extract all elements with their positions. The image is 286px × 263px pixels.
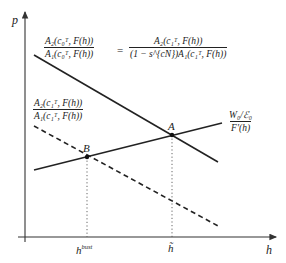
point-a — [170, 133, 174, 137]
x-axis-label: h — [266, 244, 272, 256]
increasing-curve-label: W₀/ℰ₀ F′(h) — [228, 110, 253, 134]
upper-right-numerator: A₂(c₁ᵀ, F(h)) — [154, 36, 202, 46]
upper-right-denominator: (1 − s^{cN})A₁(c₁ᵀ, F(h)) — [130, 49, 226, 59]
tick-h-bust-sup: bust — [82, 243, 93, 250]
tick-h-tilde: h̃ — [168, 243, 174, 254]
lower-decreasing-dashed-curve — [34, 126, 220, 227]
point-a-label: A — [168, 121, 175, 132]
upper-left-numerator: A₂(c₀ᵀ, F(h)) — [45, 36, 93, 46]
point-b-label: B — [83, 143, 90, 154]
dashed-numerator: A₂(c₁ᵀ, F(h)) — [34, 98, 82, 108]
upper-left-denominator: A₁(c₀ᵀ, F(h)) — [45, 49, 93, 59]
increasing-curve — [34, 123, 222, 170]
increasing-numerator: W₀/ℰ₀ — [229, 110, 252, 120]
equals-sign: = — [117, 44, 123, 56]
dashed-curve-label: A₂(c₁ᵀ, F(h)) A₁(c₁ᵀ, F(h)) — [33, 98, 83, 122]
y-axis-label: p — [12, 14, 18, 26]
upper-curve-label-left: A₂(c₀ᵀ, F(h)) A₁(c₀ᵀ, F(h)) — [44, 36, 94, 60]
tick-h-bust: hbust — [76, 244, 92, 256]
upper-curve-label-right: A₂(c₁ᵀ, F(h)) (1 − s^{cN})A₁(c₁ᵀ, F(h)) — [129, 36, 227, 60]
increasing-denominator: F′(h) — [231, 123, 250, 133]
dashed-denominator: A₁(c₁ᵀ, F(h)) — [34, 111, 82, 121]
point-b — [85, 155, 89, 159]
